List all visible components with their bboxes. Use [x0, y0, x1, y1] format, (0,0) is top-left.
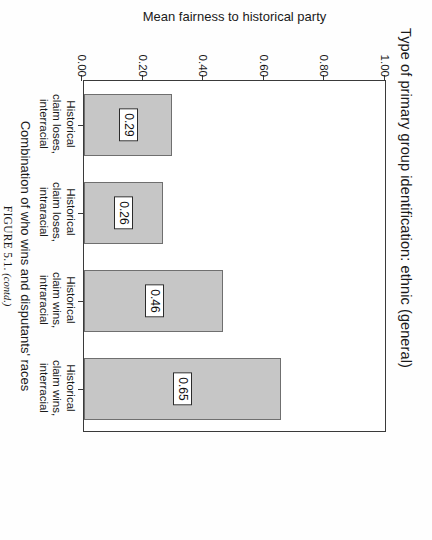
- y-axis-tick-label: 0.60: [258, 55, 270, 77]
- bar-value-label: 0.65: [173, 372, 192, 405]
- rotated-figure-wrapper: Type of primary group identification: et…: [0, 0, 432, 540]
- x-axis-category-label-line: claim loses,: [50, 78, 64, 170]
- x-axis-category-label-line: intraracial: [36, 166, 50, 258]
- chart-title: Type of primary group identification: et…: [398, 28, 414, 448]
- scanned-page: Type of primary group identification: et…: [0, 0, 432, 540]
- y-axis-tick-label: 0.20: [137, 55, 149, 77]
- x-axis-category-label-line: Historical: [63, 342, 77, 434]
- bar-value-label: 0.26: [114, 196, 133, 229]
- figure-caption: FIGURE 5.1. (contd.): [2, 80, 14, 432]
- figure: Type of primary group identification: et…: [0, 0, 432, 540]
- x-axis-category-label-line: claim wins,: [50, 254, 64, 346]
- y-axis-tick-label: 0.00: [76, 55, 88, 77]
- x-axis-tick: [78, 389, 84, 390]
- x-axis-category-label-line: claim wins,: [50, 342, 64, 434]
- figure-caption-note: (contd.): [2, 273, 13, 306]
- x-axis-tick: [78, 125, 84, 126]
- figure-caption-label: FIGURE 5.1.: [2, 206, 14, 271]
- bar-value-label: 0.46: [145, 284, 164, 317]
- y-axis-tick-label: 0.80: [318, 55, 330, 77]
- y-axis-title: Mean fairness to historical party: [83, 8, 386, 26]
- plot-area: 0.290.260.460.65: [84, 81, 385, 431]
- x-axis-category-label-line: claim loses,: [50, 166, 64, 258]
- x-axis-category-label: Historicalclaim loses,interracial: [36, 78, 77, 170]
- x-axis-tick: [78, 213, 84, 214]
- x-axis-category-label-line: Historical: [63, 78, 77, 170]
- y-axis-tick-label: 0.40: [197, 55, 209, 77]
- x-axis-category-label-line: intraracial: [36, 254, 50, 346]
- y-axis-title-text: Mean fairness to historical party: [143, 10, 327, 25]
- y-axis-tick-label: 1.00: [379, 55, 391, 77]
- x-axis-category-label-line: interracial: [36, 78, 50, 170]
- x-axis-category-label: Historicalclaim wins,interracial: [36, 342, 77, 434]
- x-axis-category-label-line: Historical: [63, 254, 77, 346]
- x-axis-tick: [78, 301, 84, 302]
- plot-frame: 0.000.200.400.600.801.00 0.290.260.460.6…: [83, 80, 386, 432]
- x-axis-category-label: Historicalclaim wins,intraracial: [36, 254, 77, 346]
- x-axis-category-label-line: Historical: [63, 166, 77, 258]
- bar-value-label: 0.29: [119, 108, 138, 141]
- x-axis-category-label: Historicalclaim loses,intraracial: [36, 166, 77, 258]
- x-axis-category-label-line: interracial: [36, 342, 50, 434]
- x-axis-title: Combination of who wins and disputants' …: [18, 80, 33, 432]
